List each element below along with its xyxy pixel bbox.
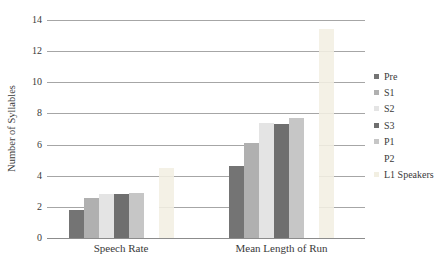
legend-marker — [374, 156, 379, 161]
category-label: Speech Rate — [31, 242, 211, 254]
legend-label: Pre — [384, 71, 397, 82]
gridline — [47, 82, 365, 83]
bar-s2-group2 — [259, 123, 274, 238]
y-tick-label: 14 — [14, 14, 42, 26]
bar-p1-group1 — [129, 193, 144, 238]
y-tick-label: 8 — [14, 107, 42, 119]
bar-l1-speakers-group2 — [319, 29, 334, 238]
legend-item-s1: S1 — [374, 84, 434, 100]
bar-p2-group1 — [144, 193, 159, 238]
bar-s3-group1 — [114, 194, 129, 238]
legend-item-p1: P1 — [374, 134, 434, 150]
legend-label: L1 Speakers — [384, 169, 434, 180]
bar-pre-group2 — [229, 166, 244, 238]
legend-item-l1-speakers: L1 Speakers — [374, 166, 434, 182]
legend-marker — [374, 106, 379, 111]
legend-marker — [374, 123, 379, 128]
y-tick-label: 10 — [14, 76, 42, 88]
plot-area — [47, 20, 365, 238]
legend-label: P2 — [384, 153, 395, 164]
bar-pre-group1 — [69, 210, 84, 238]
x-axis-line — [47, 238, 365, 239]
y-tick-label: 12 — [14, 45, 42, 57]
legend-label: S2 — [384, 103, 395, 114]
y-axis-title: Number of Syllables — [6, 74, 17, 184]
bar-s3-group2 — [274, 124, 289, 238]
legend-item-s2: S2 — [374, 101, 434, 117]
legend-label: S1 — [384, 87, 395, 98]
category-label: Mean Length of Run — [192, 242, 372, 254]
legend: PreS1S2S3P1P2L1 Speakers — [374, 68, 434, 183]
legend-label: P1 — [384, 136, 395, 147]
bar-l1-speakers-group1 — [159, 168, 174, 238]
legend-marker — [374, 172, 379, 177]
gridline — [47, 51, 365, 52]
bar-chart: Number of Syllables 02468101214 Speech R… — [0, 0, 448, 268]
bar-s1-group2 — [244, 143, 259, 238]
gridline — [47, 113, 365, 114]
y-tick-label: 6 — [14, 139, 42, 151]
gridline — [47, 20, 365, 21]
legend-marker — [374, 90, 379, 95]
legend-item-s3: S3 — [374, 117, 434, 133]
bar-s2-group1 — [99, 194, 114, 238]
y-tick-label: 2 — [14, 201, 42, 213]
bar-p2-group2 — [304, 123, 319, 238]
bar-s1-group1 — [84, 198, 99, 238]
legend-item-pre: Pre — [374, 68, 434, 84]
legend-marker — [374, 74, 379, 79]
legend-item-p2: P2 — [374, 150, 434, 166]
bar-p1-group2 — [289, 118, 304, 238]
y-tick-label: 4 — [14, 170, 42, 182]
legend-label: S3 — [384, 120, 395, 131]
legend-marker — [374, 139, 379, 144]
